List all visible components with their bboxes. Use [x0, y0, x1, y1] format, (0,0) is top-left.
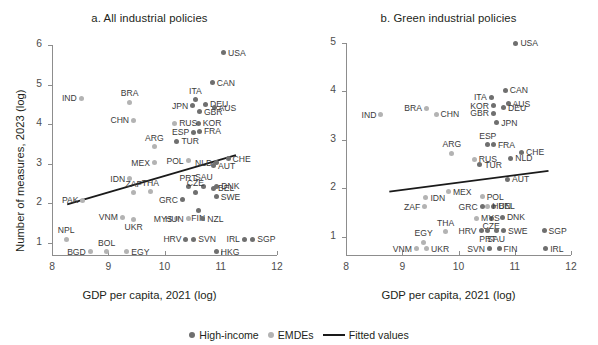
legend-dot-emdes-icon: [268, 332, 274, 338]
data-point-label: GBR: [470, 109, 489, 118]
data-point: [131, 217, 136, 222]
data-point: [211, 186, 216, 191]
data-point-label: ZAF: [125, 180, 141, 189]
data-point-label: JPN: [172, 101, 188, 110]
data-point: [497, 246, 502, 251]
data-point: [64, 237, 69, 242]
data-point-label: NLD: [515, 154, 532, 163]
data-point-label: CHN: [441, 110, 460, 119]
data-point: [472, 157, 477, 162]
data-point: [474, 216, 479, 221]
data-point-label: GRC: [459, 202, 478, 211]
panel-all-industrial-policies: a. All industrial policies Number of mea…: [0, 0, 299, 310]
data-point-label: UKR: [431, 244, 449, 253]
data-point: [180, 197, 185, 202]
legend-label-fitted-values: Fitted values: [349, 329, 409, 341]
data-point: [491, 111, 496, 116]
data-point-label: FRA: [204, 127, 221, 136]
data-point-label: MYS: [481, 214, 500, 223]
data-point-label: ARG: [145, 134, 164, 143]
data-point-label: HRV: [163, 235, 181, 244]
data-point-label: ARG: [442, 140, 461, 149]
data-point: [424, 106, 429, 111]
legend-label-high-income: High-income: [199, 329, 258, 341]
data-point-label: RUS: [179, 119, 197, 128]
data-point: [214, 194, 219, 199]
data-point: [505, 177, 510, 182]
data-point: [79, 96, 84, 101]
data-point: [191, 130, 196, 135]
data-point: [131, 118, 136, 123]
data-point-label: CAN: [510, 86, 528, 95]
data-point-label: HKG: [221, 247, 240, 256]
data-point: [193, 190, 198, 195]
data-point-label: GBR: [204, 107, 223, 116]
data-point-label: SAU: [487, 235, 505, 244]
data-point-label: ITA: [189, 87, 202, 96]
data-point: [485, 204, 490, 209]
legend-label-emdes: EMDEs: [278, 329, 314, 341]
data-point-label: IRL: [227, 235, 240, 244]
data-point-label: SWE: [508, 226, 528, 235]
data-point-label: BRA: [404, 104, 422, 113]
panel-b-plot-area: 1234589101112USACANITAAUSKORDEUGBRJPNESP…: [299, 0, 598, 310]
figure-container: a. All industrial policies Number of mea…: [0, 0, 598, 345]
panel-a-fitted-line: [0, 0, 299, 310]
data-point: [186, 216, 191, 221]
data-point: [250, 237, 255, 242]
data-point-label: HUN: [492, 202, 511, 211]
data-point-label: POL: [166, 156, 183, 165]
legend-item-fitted-values: Fitted values: [323, 329, 409, 341]
data-point: [500, 215, 505, 220]
data-point-label: UKR: [124, 223, 142, 232]
data-point-label: EGY: [415, 229, 433, 238]
data-point-label: TUR: [181, 137, 199, 146]
data-point-label: CAN: [217, 78, 235, 87]
data-point-label: RUS: [479, 155, 497, 164]
data-point-label: SVN: [467, 244, 485, 253]
data-point: [434, 112, 439, 117]
legend: High-income EMDEs Fitted values: [0, 329, 598, 341]
data-point: [196, 208, 201, 213]
data-point: [491, 142, 496, 147]
data-point-label: THA: [142, 179, 159, 188]
data-point-label: CZE: [187, 179, 204, 188]
data-point-label: THA: [437, 219, 454, 228]
data-point-label: ESP: [479, 132, 496, 141]
data-point-label: PAK: [62, 196, 79, 205]
data-point: [542, 228, 547, 233]
data-point: [489, 95, 494, 100]
data-point: [172, 121, 177, 126]
data-point-label: BOL: [98, 239, 115, 248]
data-point-label: DEU: [508, 103, 526, 112]
data-point-label: IDN: [430, 193, 445, 202]
data-point-label: USA: [520, 39, 538, 48]
panel-green-industrial-policies: b. Green industrial policies Number of m…: [299, 0, 598, 310]
data-point-label: VNM: [393, 244, 412, 253]
data-point-label: FRA: [498, 140, 515, 149]
legend-line-fitted-icon: [323, 334, 345, 336]
data-point: [210, 80, 215, 85]
data-point-label: DNK: [507, 213, 525, 222]
data-point: [480, 204, 485, 209]
data-point-label: IND: [62, 94, 77, 103]
legend-dot-high-income-icon: [189, 332, 195, 338]
data-point: [186, 158, 191, 163]
data-point-label: MEX: [131, 158, 150, 167]
data-point-label: SGP: [549, 226, 567, 235]
data-point-label: EGY: [131, 247, 149, 256]
data-point-label: BGD: [67, 247, 86, 256]
data-point-label: FIN: [504, 244, 518, 253]
data-point-label: CHN: [110, 116, 129, 125]
data-point-label: IND: [362, 110, 377, 119]
data-point-label: NZL: [207, 214, 223, 223]
data-point-label: AUT: [218, 161, 235, 170]
data-point-label: USA: [228, 48, 246, 57]
data-point-label: IDN: [110, 174, 125, 183]
data-point: [479, 228, 484, 233]
data-point-label: BRA: [121, 89, 139, 98]
legend-item-high-income: High-income: [189, 329, 258, 341]
data-point-label: SVN: [198, 235, 216, 244]
data-point-label: SGP: [257, 235, 275, 244]
data-point-label: VNM: [99, 213, 118, 222]
